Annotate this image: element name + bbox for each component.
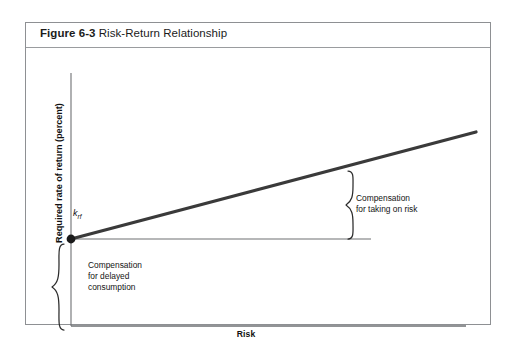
figure-title-bar: Figure 6-3 Risk-Return Relationship: [26, 23, 490, 48]
figure-number: Figure 6-3: [40, 27, 95, 39]
figure-root: Figure 6-3 Risk-Return Relationship: [0, 0, 518, 347]
risk-free-subscript: rf: [78, 213, 82, 220]
delayed-consumption-line-1: Compensation: [88, 260, 142, 271]
figure-frame: Figure 6-3 Risk-Return Relationship: [25, 22, 491, 325]
security-market-line: [71, 132, 476, 239]
risk-premium-line-1: Compensation: [356, 193, 417, 204]
figure-title-text: Risk-Return Relationship: [99, 27, 227, 39]
risk-free-point-marker: [67, 235, 76, 244]
risk-free-rate-label: krf: [73, 208, 81, 220]
risk-premium-annotation: Compensation for taking on risk: [356, 193, 417, 215]
delayed-consumption-line-3: consumption: [88, 282, 142, 293]
y-axis-label: Required rate of return (percent): [54, 93, 64, 253]
plot-area: Required rate of return (percent) Risk k…: [26, 48, 490, 325]
delayed-consumption-line-2: for delayed: [88, 271, 142, 282]
delayed-consumption-brace-icon: [52, 244, 64, 330]
figure-title: Figure 6-3 Risk-Return Relationship: [40, 27, 227, 39]
delayed-consumption-annotation: Compensation for delayed consumption: [88, 260, 142, 293]
risk-premium-brace-icon: [346, 171, 353, 239]
risk-premium-line-2: for taking on risk: [356, 204, 417, 215]
x-axis-label: Risk: [26, 329, 466, 339]
